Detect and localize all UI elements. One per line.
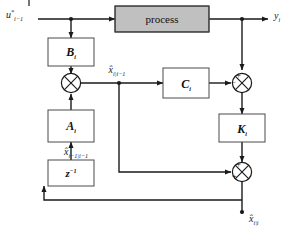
sum-update-plus-sign-left: +: [232, 172, 237, 181]
signal-label-output: yi: [273, 10, 280, 23]
signal-label-state-prev: x̂i−1|i−1: [63, 146, 88, 159]
signal-label-state-predicted: x̂i|i−1: [108, 64, 126, 77]
signal-label-input: u*i−1: [6, 8, 23, 22]
branch-point-state-updated: [240, 210, 244, 214]
sum-innovation-plus-sign: +: [236, 71, 241, 80]
junction-sum-predict[interactable]: [61, 73, 80, 92]
wire-feedback-to-delay: [44, 186, 242, 200]
block-diagram: process Bi Ai Ci Ki z−1 + −: [0, 0, 296, 234]
block-process-label: process: [146, 13, 179, 25]
sum-innovation-minus-sign: −: [231, 78, 236, 87]
signal-label-state-updated: x̂i|i: [248, 213, 259, 226]
sum-update-plus-sign-top: +: [236, 160, 241, 169]
diagram-canvas: process Bi Ai Ci Ki z−1 + −: [0, 0, 296, 234]
